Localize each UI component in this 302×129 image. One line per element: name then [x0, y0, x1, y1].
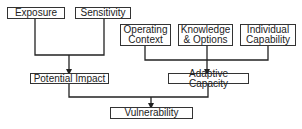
node-exposure: Exposure — [7, 7, 65, 19]
vulnerability-diagram: Exposure Sensitivity Operating Context K… — [0, 0, 302, 129]
node-vulnerability: Vulnerability — [110, 107, 193, 119]
node-knowledge-options: Knowledge & Options — [178, 24, 233, 46]
node-potential-impact: Potential Impact — [30, 73, 109, 84]
node-adaptive-capacity: Adaptive Capacity — [168, 73, 249, 84]
node-individual-capability: Individual Capability — [240, 24, 296, 46]
node-sensitivity: Sensitivity — [75, 7, 131, 19]
node-operating-context: Operating Context — [120, 24, 171, 46]
